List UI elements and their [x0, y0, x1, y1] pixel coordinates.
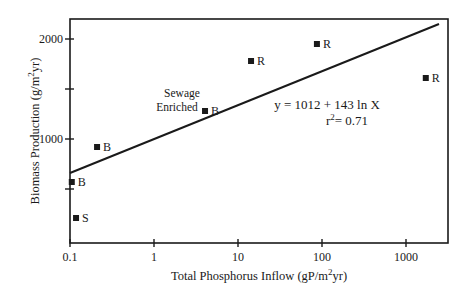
data-point-marker — [314, 41, 320, 47]
data-point-marker — [248, 58, 254, 64]
x-tick-label: 1000 — [394, 250, 418, 264]
data-point-label: R — [323, 37, 331, 51]
x-tick-label: 10 — [232, 250, 244, 264]
data-point-marker — [73, 215, 79, 221]
annotation-sewage: Sewage — [164, 87, 200, 100]
regression-line — [70, 24, 439, 173]
regression-equation: y = 1012 + 143 ln X — [274, 97, 380, 112]
data-point-marker — [94, 144, 100, 150]
data-point-label: B — [103, 140, 111, 154]
data-point-label: R — [432, 71, 440, 85]
data-point-label: B — [78, 175, 86, 189]
x-tick-label: 100 — [313, 250, 331, 264]
data-point-label: R — [257, 54, 265, 68]
data-point-marker — [423, 75, 429, 81]
x-axis-title: Total Phosphorus Inflow (gP/m2yr) — [171, 267, 347, 283]
r-squared: r2= 0.71 — [326, 112, 368, 128]
x-tick-label: 0.1 — [63, 250, 78, 264]
y-axis: 10002000 — [39, 32, 74, 189]
data-point-label: B — [211, 104, 219, 118]
x-tick-label: 1 — [151, 250, 157, 264]
data-point-marker — [69, 179, 75, 185]
plot-frame — [70, 19, 448, 243]
annotation-enriched: Enriched — [156, 101, 198, 113]
data-points: SBBBRRR — [69, 37, 440, 225]
data-point-label: S — [82, 211, 89, 225]
scatter-chart: 0.1110100100010002000Total Phosphorus In… — [0, 0, 469, 294]
y-tick-label: 1000 — [39, 132, 63, 146]
y-tick-label: 2000 — [39, 32, 63, 46]
data-point-marker — [202, 108, 208, 114]
y-axis-title: Biomass Production (g/m2yr) — [26, 58, 42, 205]
